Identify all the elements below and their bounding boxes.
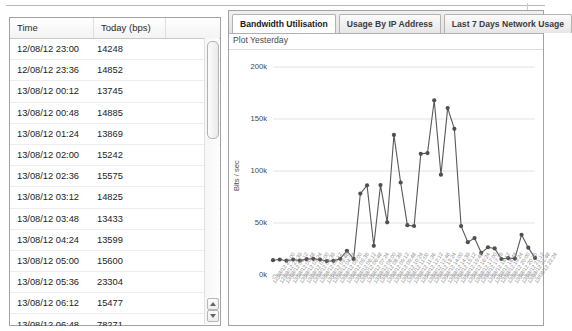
cell-time: 13/08/12 03:48 <box>10 214 94 224</box>
cell-today-bps: 78271 <box>94 320 166 326</box>
cell-time: 13/08/12 05:00 <box>10 256 94 266</box>
cell-today-bps: 14248 <box>94 44 166 54</box>
plot-caption: Plot Yesterday <box>233 35 288 45</box>
cell-today-bps: 13745 <box>94 86 166 96</box>
cell-today-bps: 23304 <box>94 277 166 287</box>
data-point[interactable] <box>412 224 416 228</box>
table-row[interactable]: 13/08/12 06:4878271 <box>10 314 220 326</box>
table-row[interactable]: 13/08/12 04:2413599 <box>10 230 220 251</box>
top-divider-tick <box>527 3 528 10</box>
table-row[interactable]: 13/08/12 06:1215477 <box>10 293 220 314</box>
y-axis-label: Bits / sec <box>232 160 241 191</box>
cell-time: 13/08/12 04:24 <box>10 235 94 245</box>
table-row[interactable]: 13/08/12 01:2413869 <box>10 124 220 145</box>
data-point[interactable] <box>466 240 470 244</box>
table-header-row: Time Today (bps) <box>10 18 220 39</box>
tab-usage-by-ip-address[interactable]: Usage By IP Address <box>339 14 441 33</box>
scroll-down-arrow-icon[interactable] <box>207 310 219 322</box>
table-row[interactable]: 13/08/12 05:3623304 <box>10 272 220 293</box>
table-row[interactable]: 13/08/12 03:1214825 <box>10 187 220 208</box>
chart-svg <box>229 51 543 327</box>
cell-today-bps: 15242 <box>94 150 166 160</box>
cell-today-bps: 13869 <box>94 129 166 139</box>
chart-panel: Bandwidth UtilisationUsage By IP Address… <box>228 10 544 326</box>
bandwidth-data-table-panel: Time Today (bps) 12/08/12 23:001424812/0… <box>9 17 221 326</box>
cell-time: 13/08/12 00:48 <box>10 108 94 118</box>
cell-time: 13/08/12 06:48 <box>10 320 94 326</box>
scrollbar-thumb[interactable] <box>207 41 219 139</box>
cell-today-bps: 15477 <box>94 298 166 308</box>
cell-today-bps: 14825 <box>94 192 166 202</box>
table-body[interactable]: 12/08/12 23:001424812/08/12 23:361485213… <box>10 39 220 326</box>
table-row[interactable]: 12/08/12 23:0014248 <box>10 39 220 60</box>
data-point[interactable] <box>278 257 282 261</box>
series-line <box>273 100 535 261</box>
table-row[interactable]: 13/08/12 03:4813433 <box>10 209 220 230</box>
data-point[interactable] <box>519 233 523 237</box>
cell-today-bps: 14885 <box>94 108 166 118</box>
table-row[interactable]: 13/08/12 02:0015242 <box>10 145 220 166</box>
cell-time: 13/08/12 06:12 <box>10 298 94 308</box>
data-point[interactable] <box>399 180 403 184</box>
tab-last-7-days-network-usage[interactable]: Last 7 Days Network Usage <box>444 14 572 33</box>
data-point[interactable] <box>358 191 362 195</box>
column-header-time[interactable]: Time <box>10 18 94 38</box>
table-vertical-scrollbar[interactable] <box>204 38 219 324</box>
data-point[interactable] <box>493 246 497 250</box>
y-axis-tick-label: 100k <box>233 166 267 175</box>
y-axis-tick-label: 50k <box>233 218 267 227</box>
data-point[interactable] <box>526 246 530 250</box>
tab-bandwidth-utilisation[interactable]: Bandwidth Utilisation <box>232 14 336 33</box>
table-row[interactable]: 13/08/12 02:3615575 <box>10 166 220 187</box>
table-row[interactable]: 13/08/12 00:1213745 <box>10 81 220 102</box>
cell-time: 13/08/12 02:36 <box>10 171 94 181</box>
data-point[interactable] <box>472 236 476 240</box>
y-axis-tick-label: 150k <box>233 114 267 123</box>
data-point[interactable] <box>271 258 275 262</box>
caption-divider <box>229 49 543 50</box>
cell-time: 13/08/12 05:36 <box>10 277 94 287</box>
column-header-today-bps[interactable]: Today (bps) <box>94 18 166 38</box>
table-row[interactable]: 13/08/12 00:4814885 <box>10 103 220 124</box>
data-point[interactable] <box>432 98 436 102</box>
data-point[interactable] <box>385 220 389 224</box>
y-axis-tick-label: 200k <box>233 62 267 71</box>
data-point[interactable] <box>439 173 443 177</box>
data-point[interactable] <box>405 223 409 227</box>
data-point[interactable] <box>446 106 450 110</box>
cell-time: 13/08/12 01:24 <box>10 129 94 139</box>
scroll-up-arrow-icon[interactable] <box>207 298 219 310</box>
data-point[interactable] <box>419 152 423 156</box>
cell-today-bps: 15600 <box>94 256 166 266</box>
tab-bar: Bandwidth UtilisationUsage By IP Address… <box>229 11 543 34</box>
column-header-empty[interactable] <box>166 18 220 38</box>
data-point[interactable] <box>365 183 369 187</box>
cell-time: 12/08/12 23:00 <box>10 44 94 54</box>
table-row[interactable]: 12/08/12 23:3614852 <box>10 60 220 81</box>
y-axis-tick-label: 0k <box>233 270 267 279</box>
data-point[interactable] <box>372 244 376 248</box>
data-point[interactable] <box>486 245 490 249</box>
cell-today-bps: 13433 <box>94 214 166 224</box>
top-divider <box>6 5 545 6</box>
table-row[interactable]: 13/08/12 05:0015600 <box>10 251 220 272</box>
data-point[interactable] <box>425 151 429 155</box>
cell-time: 13/08/12 02:00 <box>10 150 94 160</box>
cell-time: 12/08/12 23:36 <box>10 65 94 75</box>
bandwidth-line-chart[interactable]: Bits / sec 0k50k100k150k200k12/08/12 23:… <box>229 51 543 325</box>
cell-time: 13/08/12 03:12 <box>10 192 94 202</box>
cell-today-bps: 13599 <box>94 235 166 245</box>
data-point[interactable] <box>392 133 396 137</box>
cell-time: 13/08/12 00:12 <box>10 86 94 96</box>
cell-today-bps: 15575 <box>94 171 166 181</box>
data-point[interactable] <box>378 183 382 187</box>
data-point[interactable] <box>459 224 463 228</box>
data-point[interactable] <box>452 127 456 131</box>
cell-today-bps: 14852 <box>94 65 166 75</box>
